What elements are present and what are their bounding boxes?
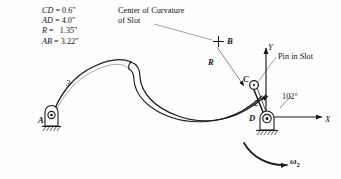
dimension-row: R = 1.35": [42, 26, 78, 36]
dimension-row: AB = 3.22": [42, 37, 78, 47]
dimension-row: AD = 4.0": [42, 16, 78, 26]
pin-in-slot-note: Pin in Slot: [278, 52, 313, 62]
link-label-2: 2: [254, 98, 258, 108]
y-axis-label: Y: [268, 42, 273, 52]
point-label-c: C: [243, 74, 249, 84]
dimension-row: CD = 0.6": [42, 6, 78, 16]
link-label-3: 3: [66, 78, 70, 88]
dimension-list: CD = 0.6" AD = 4.0" R = 1.35" AB = 3.22": [42, 6, 78, 47]
leader-center-of-curvature: [154, 24, 212, 40]
link-3-body: [52, 60, 266, 122]
radius-label: R: [208, 57, 214, 67]
pin-at-C: [250, 81, 259, 90]
angle-label: 102°: [282, 92, 298, 102]
angular-velocity-arrow: [244, 143, 287, 165]
point-label-a: A: [38, 115, 44, 125]
center-of-curvature-note: Center of Curvature of Slot: [118, 6, 184, 26]
ground-pivot-D: [256, 111, 278, 135]
omega-subscript: 2: [297, 161, 300, 168]
ground-pivot-A: [42, 106, 61, 131]
angular-velocity-label: ω2: [290, 156, 300, 169]
point-label-d: D: [249, 113, 255, 123]
radius-dimension-line: [217, 47, 244, 86]
center-of-curvature-marker: [213, 36, 224, 47]
x-axis-label: X: [325, 114, 330, 124]
point-label-b: B: [227, 36, 233, 46]
kinematics-diagram: CD = 0.6" AD = 4.0" R = 1.35" AB = 3.22"…: [0, 0, 341, 179]
